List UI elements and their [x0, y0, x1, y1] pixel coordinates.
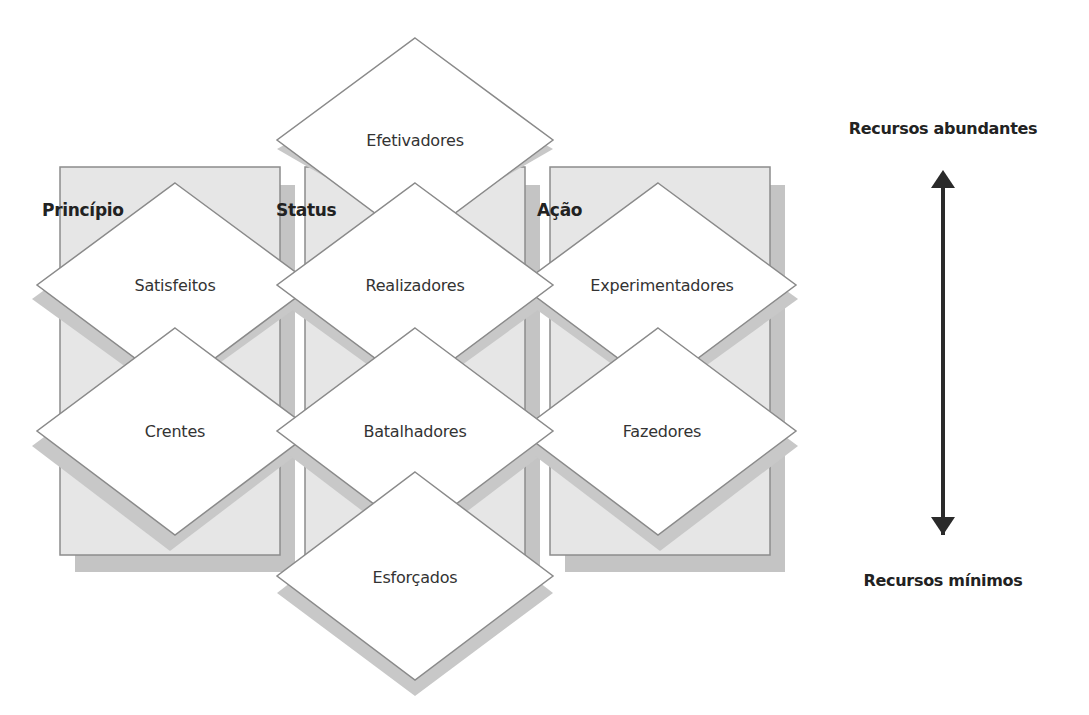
panel-label-principio: Princípio	[42, 200, 124, 220]
label-experimentadores: Experimentadores	[590, 276, 733, 295]
label-batalhadores: Batalhadores	[363, 422, 466, 441]
label-satisfeitos: Satisfeitos	[134, 276, 215, 295]
label-realizadores: Realizadores	[365, 276, 464, 295]
double-headed-arrow-icon	[931, 170, 955, 535]
panel-label-status: Status	[276, 200, 336, 220]
panel-label-acao: Ação	[537, 200, 582, 220]
axis-label-top: Recursos abundantes	[849, 119, 1038, 138]
label-fazedores: Fazedores	[623, 422, 701, 441]
label-esforcados: Esforçados	[373, 568, 458, 587]
label-crentes: Crentes	[145, 422, 205, 441]
diagram-canvas	[0, 0, 1089, 715]
axis-label-bottom: Recursos mínimos	[864, 571, 1023, 590]
label-efetivadores: Efetivadores	[366, 131, 464, 150]
